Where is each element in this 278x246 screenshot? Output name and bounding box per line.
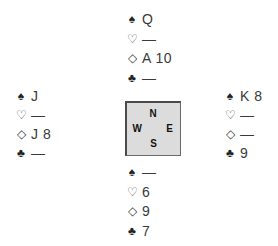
diamond-icon: ◇: [224, 125, 236, 144]
club-icon: ♣: [126, 222, 138, 241]
club-icon: ♣: [15, 144, 27, 163]
north-clubs-cards: —: [142, 69, 157, 88]
west-hearts-cards: —: [31, 106, 46, 125]
south-diamonds-cards: 9: [142, 202, 150, 221]
south-spades-cards: —: [142, 163, 157, 182]
spade-icon: ♠: [224, 87, 236, 106]
compass-box: N W E S: [125, 101, 181, 156]
west-spades-cards: J: [31, 87, 39, 106]
heart-icon: ♡: [126, 183, 138, 202]
spade-icon: ♠: [126, 10, 138, 29]
compass-west-label: W: [133, 122, 142, 134]
south-hearts-cards: 6: [142, 183, 150, 202]
east-diamonds-cards: —: [240, 125, 255, 144]
south-clubs-cards: 7: [142, 222, 150, 241]
west-diamonds-cards: J 8: [31, 125, 51, 144]
heart-icon: ♡: [224, 106, 236, 125]
spade-icon: ♠: [126, 163, 138, 182]
diamond-icon: ◇: [15, 125, 27, 144]
heart-icon: ♡: [15, 106, 27, 125]
heart-icon: ♡: [126, 30, 138, 49]
north-spades-cards: Q: [142, 10, 153, 29]
north-diamonds-cards: A 10: [142, 49, 172, 68]
east-hearts-cards: —: [240, 106, 255, 125]
diamond-icon: ◇: [126, 202, 138, 221]
compass-north-label: N: [149, 107, 156, 119]
east-spades-cards: K 8: [240, 87, 263, 106]
compass-south-label: S: [150, 137, 157, 149]
east-clubs-cards: 9: [240, 144, 248, 163]
diamond-icon: ◇: [126, 49, 138, 68]
north-hearts-cards: —: [142, 30, 157, 49]
club-icon: ♣: [224, 144, 236, 163]
club-icon: ♣: [126, 69, 138, 88]
spade-icon: ♠: [15, 87, 27, 106]
compass-east-label: E: [166, 122, 173, 134]
west-clubs-cards: —: [31, 144, 46, 163]
